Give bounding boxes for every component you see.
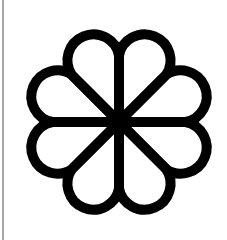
flower-icon xyxy=(0,0,227,240)
flower-icon-container xyxy=(0,0,227,240)
